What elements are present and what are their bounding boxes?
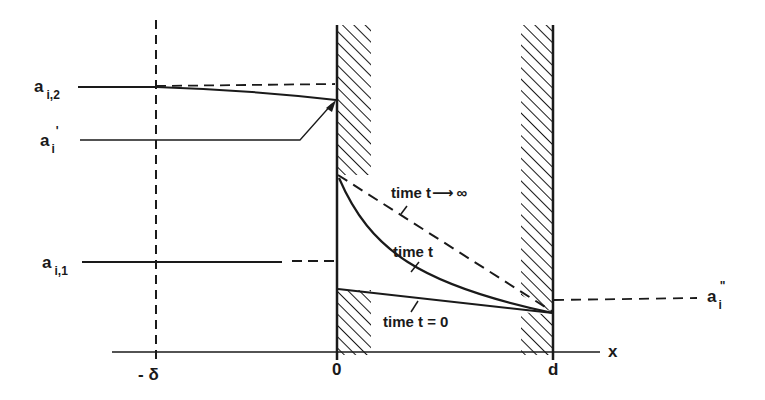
arrowhead-icon [326,100,336,112]
label-a-i1: ai,1 [42,253,68,278]
label-a-i-double-prime: ai" [707,279,726,312]
tick-zero: 0 [332,360,341,379]
left-membrane-hatch [338,25,371,355]
tick-minus-delta: - δ [138,365,159,384]
a-i2-dashed-extension [156,84,335,86]
a-i-prime-pointer [80,104,332,140]
x-axis-label: x [608,342,618,361]
label-a-i-prime: ai' [40,124,59,156]
membrane-concentration-diagram: ai,2 ai' ai,1 ai" time t⟶∞ time t time t… [0,0,765,400]
boundary-layer-profile [156,87,336,100]
label-a-i2: ai,2 [34,77,60,102]
label-time-t: time t [393,243,433,260]
label-time-t-zero: time t = 0 [383,313,448,330]
tick-d: d [548,360,558,379]
label-time-t-infinity: time t⟶∞ [391,184,468,201]
a-i-double-prime-dashed [554,298,697,300]
